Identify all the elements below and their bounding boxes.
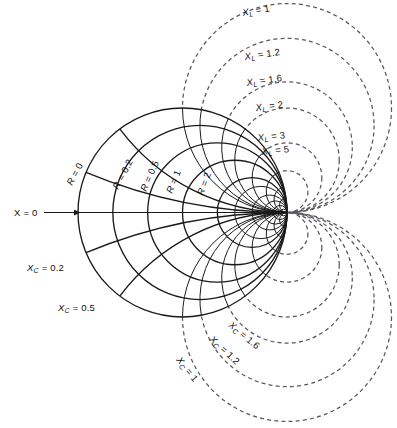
label-capacitive-xc1: XC = 1: [173, 354, 200, 385]
svg-text:XL = 3: XL = 3: [256, 129, 286, 143]
figure-caption-cropped: [0, 418, 397, 428]
label-capacitive-xc02: XC = 0.2: [26, 262, 64, 274]
label-inductive-xl1: XL = 1: [240, 2, 270, 18]
label-x-zero: X = 0: [14, 207, 37, 218]
smith-chart-figure: X = 0R = 0R = 0.2R = 0.5R = 1R = 2XL = 1…: [0, 0, 397, 428]
svg-text:XL = 1.2: XL = 1.2: [243, 46, 281, 63]
svg-text:XL = 1: XL = 1: [240, 2, 270, 18]
smith-chart-canvas: X = 0R = 0R = 0.2R = 0.5R = 1R = 2XL = 1…: [0, 0, 397, 428]
label-inductive-xl12: XL = 1.2: [243, 46, 281, 63]
label-inductive-xl5: XL = 5: [260, 143, 290, 157]
label-inductive-xl3: XL = 3: [256, 129, 286, 143]
svg-text:XC = 0.2: XC = 0.2: [26, 262, 64, 274]
label-capacitive-xc12: XC = 1.2: [207, 333, 243, 367]
svg-text:XC = 0.5: XC = 0.5: [57, 302, 95, 314]
svg-text:XC = 1.2: XC = 1.2: [207, 333, 243, 367]
label-capacitive-xc16: XC = 1.6: [226, 318, 263, 351]
svg-text:XC = 1.6: XC = 1.6: [226, 318, 263, 351]
svg-text:XL = 2: XL = 2: [254, 99, 284, 114]
label-inductive-xl2: XL = 2: [254, 99, 284, 114]
svg-text:XC = 1: XC = 1: [173, 354, 200, 385]
svg-text:X = 0: X = 0: [14, 207, 37, 218]
svg-text:XL = 5: XL = 5: [260, 143, 290, 157]
label-capacitive-xc05: XC = 0.5: [57, 302, 95, 314]
